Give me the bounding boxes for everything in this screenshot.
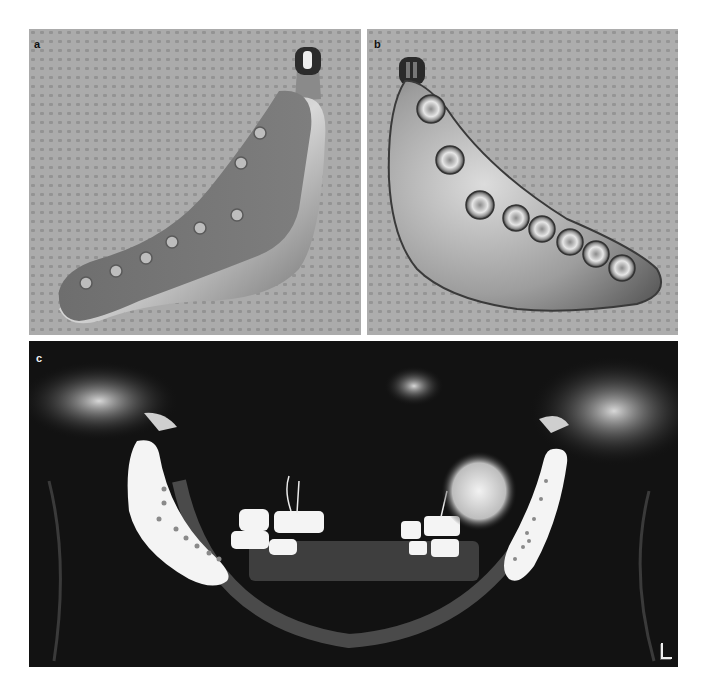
panel-label-c: c xyxy=(36,353,42,364)
panel-label-a: a xyxy=(34,39,40,50)
implant-photo-a xyxy=(29,29,361,335)
panel-b-implant-outer-side: b xyxy=(367,29,678,335)
panoramic-radiograph xyxy=(29,341,678,667)
panel-c-panoramic-xray: c xyxy=(29,341,678,667)
panel-label-b: b xyxy=(374,39,381,50)
side-marker-l-icon xyxy=(661,643,672,659)
implant-photo-b xyxy=(367,29,678,335)
panel-a-implant-bone-side: a xyxy=(29,29,361,335)
